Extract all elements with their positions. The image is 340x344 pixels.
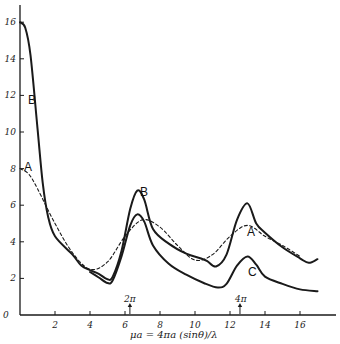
x-tick-label: 12 bbox=[224, 320, 236, 330]
curves bbox=[20, 22, 318, 291]
curve-c bbox=[90, 214, 318, 291]
scattering-intensity-chart: 0246810121416246810121416 B A B A C 2π 4… bbox=[0, 0, 340, 344]
x-tick-label: 2 bbox=[51, 320, 58, 330]
curve-b-label-mid: B bbox=[140, 185, 148, 199]
x-tick-label: 6 bbox=[122, 320, 128, 330]
y-tick-label: 4 bbox=[9, 237, 16, 247]
annotation-2pi: 2π bbox=[123, 294, 137, 304]
y-tick-label: 16 bbox=[5, 17, 17, 27]
y-tick-label: 12 bbox=[5, 90, 17, 100]
y-tick-label: 14 bbox=[5, 54, 17, 64]
curve-a-label-top: A bbox=[24, 160, 32, 174]
y-tick-label: 2 bbox=[9, 273, 16, 283]
curve-c-label: C bbox=[248, 265, 257, 279]
annotation-4pi: 4π bbox=[234, 294, 248, 304]
curve-b-label-top: B bbox=[28, 93, 36, 107]
axes: 0246810121416246810121416 bbox=[3, 5, 336, 330]
x-tick-label: 14 bbox=[259, 320, 271, 330]
curve-b bbox=[20, 22, 318, 280]
x-tick-label: 16 bbox=[294, 320, 306, 330]
curve-a-label-right: A bbox=[247, 225, 255, 239]
x-axis-label: μa = 4πa (sinθ)/λ bbox=[130, 329, 218, 340]
x-tick-label: 4 bbox=[86, 320, 93, 330]
y-tick-label: 8 bbox=[10, 164, 16, 174]
y-tick-label: 10 bbox=[5, 127, 17, 137]
y-tick-label: 6 bbox=[10, 200, 16, 210]
y-tick-label: 0 bbox=[3, 310, 9, 320]
